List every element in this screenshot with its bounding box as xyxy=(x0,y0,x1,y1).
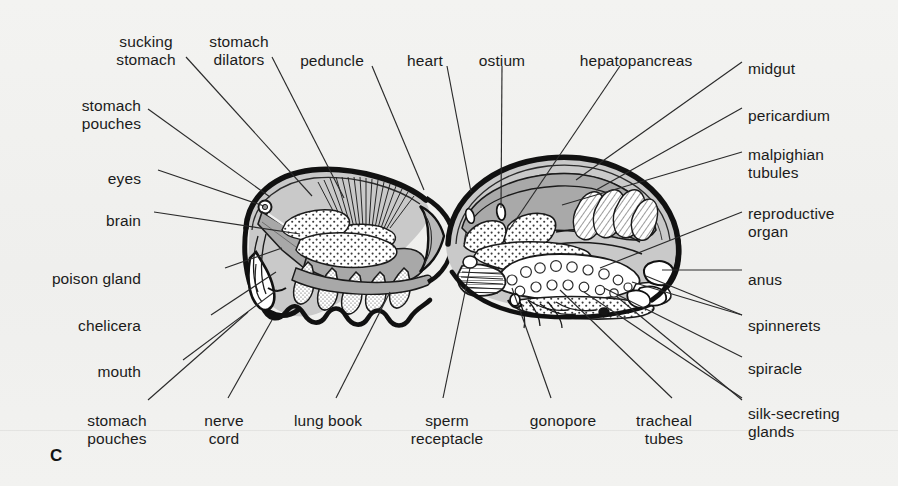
label-brain: brain xyxy=(0,212,141,230)
prosoma-group xyxy=(245,169,432,325)
label-malpighian-tubules: malpighian tubules xyxy=(748,146,824,181)
label-tracheal-tubes: tracheal tubes xyxy=(524,412,804,447)
label-spinnerets: spinnerets xyxy=(748,317,821,335)
label-mouth: mouth xyxy=(0,363,141,381)
label-spiracle: spiracle xyxy=(748,360,802,378)
figure-letter: C xyxy=(50,446,62,466)
label-anus: anus xyxy=(748,271,782,289)
opisthosoma-group xyxy=(446,157,679,328)
label-midgut: midgut xyxy=(748,60,795,78)
label-poison-gland: poison gland xyxy=(0,270,141,288)
label-reproductive-organ: reproductive organ xyxy=(748,205,835,240)
anatomy-figure: sucking stomachstomach dilatorspeduncleh… xyxy=(0,0,898,486)
label-eyes: eyes xyxy=(0,170,141,188)
label-pericardium: pericardium xyxy=(748,107,830,125)
label-stomach-pouches-upper: stomach pouches xyxy=(0,97,141,132)
label-chelicera: chelicera xyxy=(0,317,141,335)
label-hepatopancreas: hepatopancreas xyxy=(496,52,776,70)
